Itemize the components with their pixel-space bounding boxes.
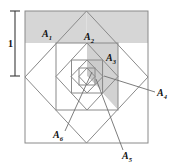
region-a2 — [87, 11, 149, 43]
nested-squares-figure: 1 A1 A2 A3 A4 A5 A6 — [0, 0, 175, 164]
label-a5: A5 — [121, 150, 133, 163]
label-a4: A4 — [156, 87, 168, 100]
label-a6: A6 — [52, 129, 64, 142]
dimension-value: 1 — [8, 38, 13, 49]
region-a2b — [25, 11, 87, 43]
